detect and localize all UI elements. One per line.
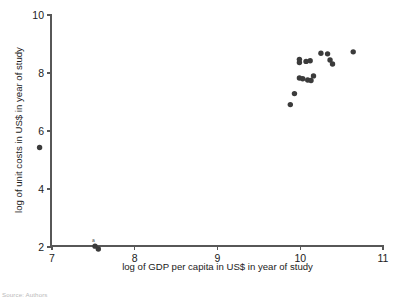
data-point <box>292 91 297 96</box>
data-point <box>297 57 302 62</box>
y-tick-label: 8 <box>38 67 44 79</box>
data-point <box>318 51 323 56</box>
footnote-marker: a <box>92 237 95 243</box>
data-point <box>96 246 101 251</box>
scatter-chart-figure: 2468107891011alog of GDP per capita in U… <box>0 0 394 299</box>
data-point <box>37 145 42 150</box>
x-axis-title: log of GDP per capita in US$ in year of … <box>122 261 313 272</box>
y-tick-label: 6 <box>38 125 44 137</box>
y-tick-label: 4 <box>38 183 44 195</box>
data-point <box>300 76 305 81</box>
plot-area: 2468107891011alog of GDP per capita in U… <box>0 0 394 299</box>
y-tick-label: 2 <box>38 241 44 253</box>
data-point <box>288 102 293 107</box>
data-point <box>311 73 316 78</box>
data-point <box>330 61 335 66</box>
source-note: Source: Authors <box>2 291 48 298</box>
data-point <box>308 78 313 83</box>
data-point <box>307 58 312 63</box>
data-point <box>325 51 330 56</box>
data-point <box>351 49 356 54</box>
y-axis-title: log of unit costs in US$ in year of stud… <box>13 47 24 213</box>
y-tick-label: 10 <box>32 9 44 21</box>
x-tick-label: 7 <box>49 252 55 264</box>
x-tick-label: 11 <box>378 252 389 264</box>
